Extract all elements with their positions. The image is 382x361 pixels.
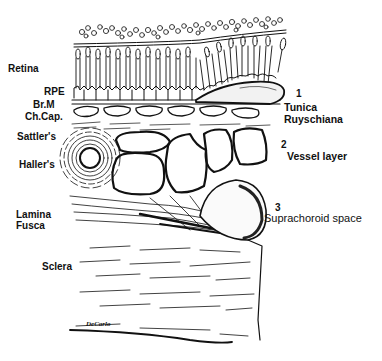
label-sclera: Sclera <box>42 261 72 272</box>
nuclear-layer-cells <box>79 17 282 39</box>
label-bruchs-membrane: Br.M <box>33 99 55 110</box>
label-retina: Retina <box>8 63 39 74</box>
choroid-diagram: Retina RPE Br.M Ch.Cap. Sattler's Haller… <box>0 0 382 361</box>
hallers-vessel <box>60 128 120 188</box>
choriocapillaris <box>74 106 259 118</box>
sclera-edge <box>248 240 262 340</box>
choroid-cross-section-drawing <box>0 0 382 361</box>
label-choriocapillaris: Ch.Cap. <box>25 111 63 122</box>
artist-signature: DeCarlo <box>86 320 111 328</box>
label-hallers-layer: Haller's <box>19 159 55 170</box>
label-rpe: RPE <box>44 86 65 97</box>
label-sattlers-layer: Sattler's <box>17 131 56 142</box>
label-tunica: Tunica <box>284 101 317 113</box>
label-ruyschiana: Ruyschiana <box>284 113 343 125</box>
label-lamina: Lamina <box>16 209 51 220</box>
label-fusca: Fusca <box>16 220 45 231</box>
label-number-2: 2 <box>281 139 287 150</box>
label-number-1: 1 <box>296 88 302 99</box>
label-vessel-layer: Vessel layer <box>287 150 347 162</box>
label-suprachoroid-space: Suprachoroid space <box>264 212 362 224</box>
